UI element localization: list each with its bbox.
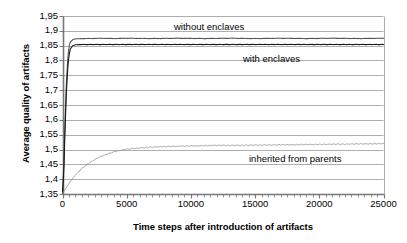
series-annotation-inherited-from-parents: inherited from parents bbox=[249, 153, 341, 164]
plot-area bbox=[0, 0, 407, 243]
series-line-without-enclaves bbox=[63, 38, 384, 193]
series-annotation-without-enclaves: without enclaves bbox=[174, 21, 244, 32]
chart-container: Average quality of artifacts 1,351,41,45… bbox=[0, 0, 407, 243]
x-axis-title: Time steps after introduction of artifac… bbox=[62, 221, 384, 232]
series-line-with-enclaves bbox=[63, 44, 384, 193]
series-annotation-with-enclaves: with enclaves bbox=[243, 53, 300, 64]
